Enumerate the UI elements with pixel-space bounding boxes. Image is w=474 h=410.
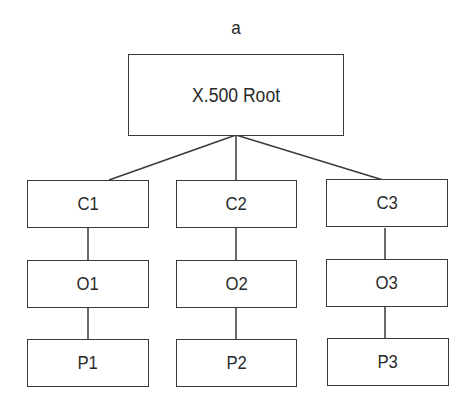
organization-node-o3: O3	[326, 259, 448, 307]
person-node-p2: P2	[176, 339, 297, 387]
country-node-c1: C1	[27, 180, 149, 228]
country-node-c2: C2	[176, 180, 297, 228]
organization-node-label: O3	[376, 272, 398, 294]
connector-root-c3	[236, 135, 383, 180]
person-node-p3: P3	[327, 338, 449, 386]
organization-node-o1: O1	[27, 260, 149, 308]
country-node-label: C1	[77, 193, 98, 215]
x500-tree-diagram: a X.500 Root C1 O1 P1 C2 O2 P2	[0, 0, 474, 410]
country-node-c3: C3	[326, 179, 448, 227]
person-node-p1: P1	[27, 339, 149, 387]
organization-node-label: O1	[77, 273, 99, 295]
country-node-label: C2	[226, 193, 247, 215]
person-node-label: P3	[378, 351, 398, 373]
person-node-label: P2	[226, 352, 246, 374]
connector-root-c1	[109, 135, 236, 180]
root-node-label: X.500 Root	[192, 84, 280, 107]
organization-node-o2: O2	[176, 260, 297, 308]
country-node-label: C3	[376, 192, 397, 214]
root-node: X.500 Root	[128, 54, 344, 136]
person-node-label: P1	[78, 352, 98, 374]
organization-node-label: O2	[225, 273, 247, 295]
